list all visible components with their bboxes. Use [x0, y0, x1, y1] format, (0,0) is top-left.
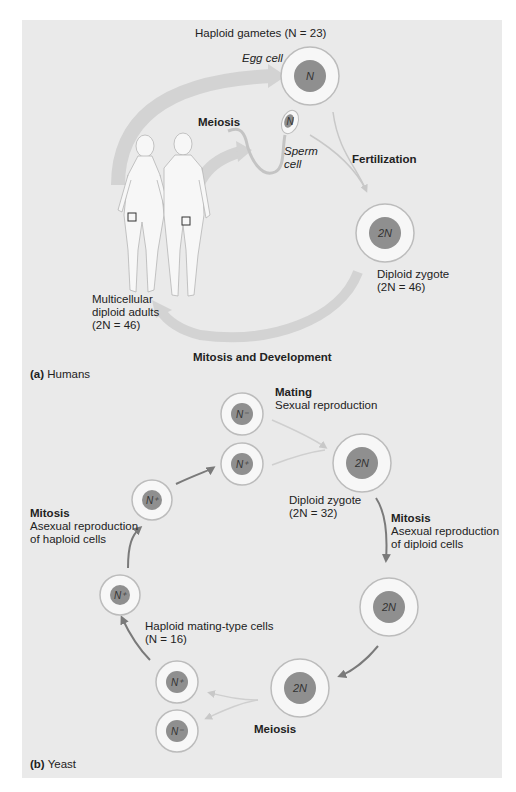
arrow-haploid-mitosis-upper — [176, 468, 213, 484]
zygote-caption-2: (2N = 46) — [377, 281, 425, 295]
yeast-zygote-caption-2: (2N = 32) — [289, 507, 337, 521]
haploid-cells-caption-2: (N = 16) — [145, 633, 187, 647]
human-figures-icon — [118, 133, 210, 296]
panel-a-letter: (a) — [30, 368, 44, 380]
cell-label: N⁺ — [146, 495, 159, 506]
panel-b-letter: (b) — [30, 758, 45, 770]
cell-label: N⁻ — [236, 409, 249, 420]
arrow-diploid-mitosis-left — [340, 646, 378, 676]
sperm-cell-caption-1: Sperm — [284, 145, 318, 159]
life-cycle-diagram: N N 2N — [0, 0, 516, 792]
arrow-fertilization — [310, 112, 366, 190]
mitosis-diploid-line2: of diploid cells — [391, 538, 463, 552]
sperm-cell-label: N — [286, 116, 294, 127]
yeast-zygote-caption-1: Diploid zygote — [289, 494, 361, 508]
mating-sub-label: Sexual reproduction — [275, 399, 377, 413]
arrow-haploid-mitosis-lower — [128, 528, 140, 568]
arrow-meiosis-plus — [210, 693, 258, 700]
arrow-diploid-mitosis-down — [376, 498, 387, 560]
adults-caption-3: (2N = 46) — [92, 319, 140, 333]
cell-label: 2N — [354, 457, 369, 469]
mitosis-diploid-line1: Asexual reproduction — [391, 525, 499, 539]
arrow-meiosis-minus — [207, 700, 258, 718]
adults-caption-1: Multicellular — [92, 293, 153, 307]
egg-cell-caption: Egg cell — [242, 52, 283, 66]
adults-caption-2: diploid adults — [92, 306, 159, 320]
cell-label: N⁺ — [171, 677, 184, 688]
cell-label: N⁺ — [114, 590, 127, 601]
cell-label: N⁻ — [171, 726, 184, 737]
meiosis-label: Meiosis — [198, 116, 240, 130]
arrow-mating-plus — [272, 450, 325, 465]
arrow-mitosis-development — [152, 272, 358, 337]
arrow-mating-minus — [272, 420, 325, 447]
mitosis-diploid-title: Mitosis — [391, 512, 431, 526]
sperm-cell-caption-2: cell — [284, 158, 301, 172]
yeast-meiosis-label: Meiosis — [254, 723, 296, 737]
cell-label: 2N — [292, 682, 307, 694]
mating-label: Mating — [275, 386, 312, 400]
cell-label: 2N — [381, 601, 396, 613]
zygote-cell-label: 2N — [377, 227, 392, 239]
mitosis-haploid-title: Mitosis — [30, 507, 70, 521]
egg-cell-label: N — [306, 70, 314, 82]
panel-a-name: Humans — [47, 368, 90, 380]
mitosis-development-label: Mitosis and Development — [193, 351, 332, 365]
panel-a-caption: (a) Humans — [30, 368, 90, 382]
cell-label: N⁺ — [236, 459, 249, 470]
panel-b-name: Yeast — [48, 758, 76, 770]
fertilization-label: Fertilization — [352, 153, 417, 167]
haploid-gametes-label: Haploid gametes (N = 23) — [195, 27, 326, 41]
panel-b-caption: (b) Yeast — [30, 758, 76, 772]
mitosis-haploid-line1: Asexual reproduction — [30, 520, 138, 534]
zygote-caption-1: Diploid zygote — [377, 268, 449, 282]
haploid-cells-caption-1: Haploid mating-type cells — [145, 620, 273, 634]
mitosis-haploid-line2: of haploid cells — [30, 533, 106, 547]
